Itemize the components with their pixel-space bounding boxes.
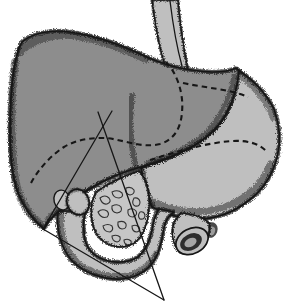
- figure-canvas: [0, 0, 291, 307]
- anatomical-figure: [0, 0, 291, 307]
